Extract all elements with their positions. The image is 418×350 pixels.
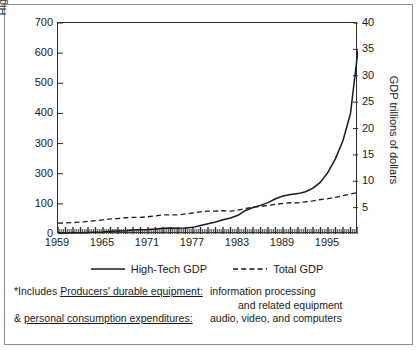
x-tick-label: 1983 [225,236,249,248]
footnote-2-right: and related equipment [210,299,406,313]
footnote-1-right: information processing [210,285,406,299]
footnotes-block: *Includes Producers' durable equipment: … [14,285,406,326]
y-right-tick-label: 20 [362,123,388,133]
y-right-tick-label: 40 [362,17,388,27]
y-axis-right-ticks: 510152025303540 [362,22,390,233]
x-tick-label: 1977 [180,236,204,248]
legend-label: Total GDP [273,263,323,275]
footnote-3-prefix: & [14,312,24,324]
x-tick-label: 1959 [45,236,69,248]
chart-figure: High tech billions of dollars GDP trilli… [0,0,418,350]
y-left-tick-label: 700 [19,17,53,27]
y-axis-left-title: High tech billions of dollars [0,0,8,35]
footnote-row-1: *Includes Producers' durable equipment: … [14,285,406,299]
footnote-row-3: & personal consumption expenditures: aud… [14,312,406,326]
footnote-1-underlined: Producers' durable equipment: [60,285,203,297]
x-axis-ticks: 1959196519711977198319891995 [57,236,357,250]
y-left-tick-label: 300 [19,168,53,178]
legend-solid-line-icon [91,265,125,273]
footnote-1-prefix: *Includes [14,285,60,297]
x-tick-label: 1971 [135,236,159,248]
y-left-tick-label: 400 [19,107,53,117]
plot-canvas [58,23,358,234]
legend-item[interactable]: High-Tech GDP [91,263,207,275]
y-right-tick-label: 15 [362,149,388,159]
legend-dashed-line-icon [233,265,267,273]
axis-major-ticks [58,23,358,234]
y-right-tick-label: 10 [362,175,388,185]
x-tick-label: 1965 [90,236,114,248]
footnote-3-underlined: personal consumption expenditures: [24,312,193,324]
y-left-tick-label: 100 [19,198,53,208]
legend-item[interactable]: Total GDP [233,263,323,275]
y-left-tick-label: 600 [19,47,53,57]
footnote-2-left [14,299,210,313]
series-line-high-tech-gdp [58,50,358,233]
x-axis-minor-ticks [58,227,358,234]
y-left-tick-label: 300 [19,138,53,148]
y-right-tick-label: 25 [362,96,388,106]
y-right-tick-label: 35 [362,43,388,53]
y-left-tick-label: 500 [19,77,53,87]
footnote-row-2: and related equipment [14,299,406,313]
x-tick-label: 1995 [315,236,339,248]
y-right-tick-label: 30 [362,70,388,80]
x-tick-label: 1989 [270,236,294,248]
y-right-tick-label: 5 [362,202,388,212]
series-line-total-gdp [58,192,358,223]
footnote-1-left: *Includes Producers' durable equipment: [14,285,210,299]
legend-label: High-Tech GDP [131,263,207,275]
plot-area [57,22,357,233]
footnote-3-right: audio, video, and computers [210,312,406,326]
chart-legend: High-Tech GDPTotal GDP [57,261,357,277]
y-axis-left-ticks: 0100300300400500600700 [15,22,53,233]
footnote-3-left: & personal consumption expenditures: [14,312,210,326]
